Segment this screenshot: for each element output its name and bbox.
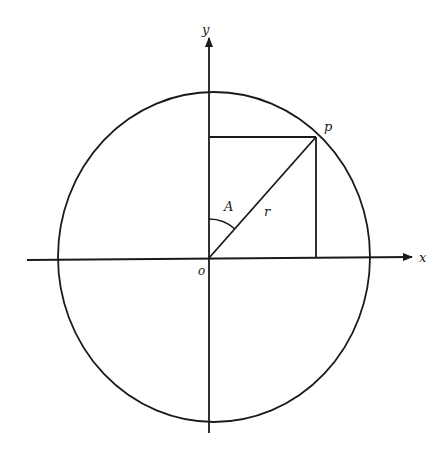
clipped-caption — [110, 455, 350, 460]
diagram-canvas: y x o p A r — [0, 0, 439, 460]
y-axis-label: y — [201, 22, 210, 37]
point-label: p — [324, 119, 333, 134]
angle-arc — [209, 219, 235, 229]
radius-label: r — [264, 204, 271, 219]
angle-label: A — [223, 199, 233, 214]
x-axis-label: x — [419, 250, 427, 265]
x-axis — [27, 257, 412, 260]
origin-label: o — [198, 264, 205, 278]
polar-coordinate-diagram: y x o p A r — [0, 0, 439, 460]
radius-line — [209, 137, 316, 258]
